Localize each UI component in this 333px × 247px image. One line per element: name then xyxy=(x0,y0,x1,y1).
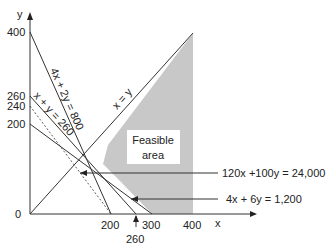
label-iso-profit: 120x +100y = 24,000 xyxy=(222,167,325,179)
y-tick-200: 200 xyxy=(7,118,25,130)
x-axis-label: x xyxy=(215,217,221,229)
feasible-label-line1: Feasible xyxy=(132,134,174,146)
y-tick-240: 240 xyxy=(7,100,25,112)
y-tick-400: 400 xyxy=(7,26,25,38)
x-tick-260: 260 xyxy=(126,233,144,245)
iso-profit-arrow-icon xyxy=(80,170,87,176)
x-tick-200: 200 xyxy=(101,219,119,231)
y-axis-label: y xyxy=(17,8,23,20)
x-tick-300: 300 xyxy=(142,219,160,231)
x-tick-400: 400 xyxy=(183,219,201,231)
x-axis-arrow-icon xyxy=(250,211,257,217)
label-4x-6y-1200: 4x + 6y = 1,200 xyxy=(226,193,302,205)
x260-arrow-icon xyxy=(133,215,139,222)
y-axis-arrow-icon xyxy=(27,12,33,20)
lp-diagram: Feasible area y x 0 400 260 240 200 200 … xyxy=(0,0,333,247)
origin-label: 0 xyxy=(15,208,21,220)
feasible-label-line2: area xyxy=(142,149,165,161)
